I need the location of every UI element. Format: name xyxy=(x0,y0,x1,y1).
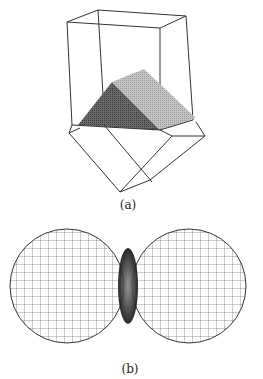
intersection-lens xyxy=(118,248,138,324)
panel-b-label: (b) xyxy=(110,362,150,376)
panel-b-figure xyxy=(0,0,263,379)
